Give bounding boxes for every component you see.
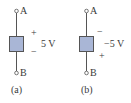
terminal-label-a-bottom: B [20, 68, 27, 78]
panel-b-circuit [80, 9, 94, 75]
terminal-label-b-top: A [90, 6, 97, 16]
polarity-a-top: + [31, 28, 37, 38]
circuit-element-b [80, 37, 94, 52]
caption-a: (a) [11, 85, 22, 95]
terminal-a-top [15, 9, 19, 13]
polarity-b-top: − [97, 27, 103, 37]
voltage-label-a: 5 V [41, 39, 56, 49]
panel-a-circuit [10, 9, 24, 75]
voltage-label-b: −5 V [104, 39, 124, 49]
polarity-b-bottom: + [99, 51, 105, 61]
terminal-label-a-top: A [20, 6, 27, 16]
terminal-b-bottom [85, 71, 89, 75]
polarity-a-bottom: − [31, 47, 37, 57]
circuit-element-a [10, 37, 24, 52]
terminal-label-b-bottom: B [90, 68, 97, 78]
terminal-a-bottom [15, 71, 19, 75]
terminal-b-top [85, 9, 89, 13]
caption-b: (b) [81, 85, 93, 95]
